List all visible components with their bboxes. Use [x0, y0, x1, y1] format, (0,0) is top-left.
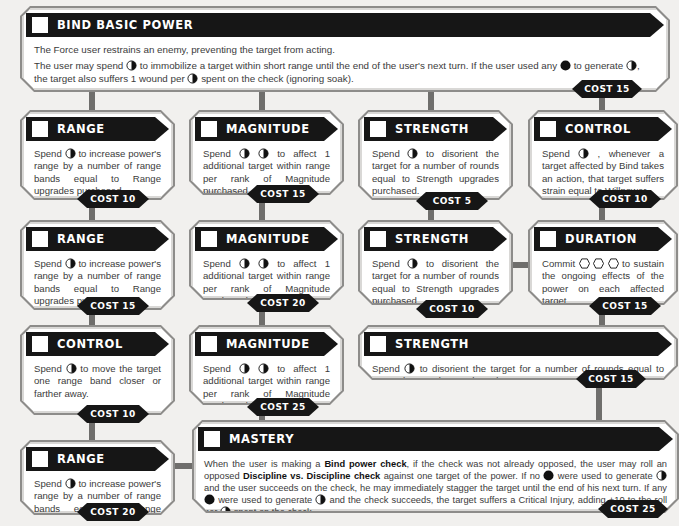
checkbox-icon[interactable] [32, 231, 48, 247]
checkbox-icon[interactable] [201, 121, 217, 137]
force-die-icon [593, 258, 604, 269]
card-title: RANGE [57, 122, 105, 136]
cost-badge: COST 10 [77, 190, 149, 208]
checkbox-icon[interactable] [540, 231, 556, 247]
basic-power-card: BIND BASIC POWER The Force user restrain… [20, 6, 670, 92]
mastery-card: MASTERY When the user is making a Bind p… [192, 420, 679, 513]
basic-rule: The user may spend to immobilize a targe… [34, 60, 656, 85]
light-dark-pip-icon [258, 258, 269, 269]
cost-badge: COST 15 [589, 297, 661, 315]
cost-badge: COST 15 [77, 297, 149, 315]
cost-badge: COST 15 [576, 370, 646, 388]
light-dark-pip-icon [187, 73, 198, 84]
cost-badge: COST 15 [247, 185, 319, 203]
upgrade-card-duration[interactable]: DURATION Commit to sustain the ongoing e… [528, 220, 678, 305]
card-title: MASTERY [229, 432, 294, 446]
light-dark-pip-icon [65, 148, 76, 159]
card-description: Spend to move the target one range band … [34, 363, 161, 400]
upgrade-card-strength-1[interactable]: STRENGTH Spend to disorient the target f… [358, 110, 513, 200]
light-dark-pip-icon [258, 148, 269, 159]
upgrade-card-range-2[interactable]: RANGE Spend to increase power's range by… [20, 220, 175, 310]
force-die-icon [608, 258, 619, 269]
light-dark-pip-icon [126, 60, 137, 71]
upgrade-card-magnitude-2[interactable]: MAGNITUDE Spend to affect 1 additional t… [189, 220, 344, 300]
force-die-icon [579, 258, 590, 269]
cost-badge: COST 15 [572, 80, 642, 98]
upgrade-card-range-1[interactable]: RANGE Spend to increase power's range by… [20, 110, 175, 200]
card-title: CONTROL [57, 337, 123, 351]
light-dark-pip-icon [66, 363, 77, 374]
checkbox-icon[interactable] [370, 231, 386, 247]
card-title: RANGE [57, 452, 105, 466]
checkbox-icon [204, 431, 220, 447]
cost-badge: COST 20 [77, 503, 149, 521]
light-dark-pip-icon [404, 363, 415, 374]
card-title: MAGNITUDE [226, 122, 310, 136]
card-title: BIND BASIC POWER [57, 18, 193, 32]
card-title: RANGE [57, 232, 105, 246]
light-dark-pip-icon [258, 363, 269, 374]
dark-pip-icon [204, 494, 215, 505]
light-dark-pip-icon [220, 506, 231, 517]
light-dark-pip-icon [578, 148, 589, 159]
checkbox-icon[interactable] [32, 451, 48, 467]
basic-description: The Force user restrains an enemy, preve… [34, 44, 656, 56]
card-title: STRENGTH [395, 122, 469, 136]
connector [259, 90, 265, 110]
cost-badge: COST 10 [77, 405, 149, 423]
cost-badge: COST 10 [416, 300, 488, 318]
light-dark-pip-icon [239, 148, 250, 159]
cost-badge: COST 25 [598, 500, 668, 518]
upgrade-card-magnitude-1[interactable]: MAGNITUDE Spend to affect 1 additional t… [189, 110, 344, 195]
light-dark-pip-icon [239, 363, 250, 374]
upgrade-card-magnitude-3[interactable]: MAGNITUDE Spend to affect 1 additional t… [189, 325, 344, 405]
upgrade-card-control-1[interactable]: CONTROL Spend , whenever a target affect… [528, 110, 678, 200]
light-dark-pip-icon [65, 478, 76, 489]
upgrade-card-strength-2[interactable]: STRENGTH Spend to disorient the target f… [358, 220, 513, 305]
checkbox-icon[interactable] [32, 336, 48, 352]
light-dark-pip-icon [407, 148, 418, 159]
cost-badge: COST 25 [247, 398, 319, 416]
card-title: MAGNITUDE [226, 337, 310, 351]
cost-badge: COST 20 [247, 294, 319, 312]
checkbox-icon [32, 17, 48, 33]
checkbox-icon[interactable] [201, 231, 217, 247]
light-dark-pip-icon [239, 258, 250, 269]
connector [89, 90, 95, 110]
light-dark-pip-icon [407, 258, 418, 269]
card-title: STRENGTH [395, 232, 469, 246]
card-title: STRENGTH [395, 337, 469, 351]
dark-pip-icon [560, 60, 571, 71]
checkbox-icon[interactable] [201, 336, 217, 352]
checkbox-icon[interactable] [370, 336, 386, 352]
light-dark-pip-icon [656, 470, 667, 481]
card-title: CONTROL [565, 122, 631, 136]
checkbox-icon[interactable] [32, 121, 48, 137]
card-title: DURATION [565, 232, 637, 246]
checkbox-icon[interactable] [540, 121, 556, 137]
light-dark-pip-icon [65, 258, 76, 269]
card-description: Spend to disorient the target for a numb… [372, 148, 499, 198]
cost-badge: COST 5 [416, 192, 488, 210]
connector [428, 90, 434, 110]
cost-badge: COST 10 [589, 190, 661, 208]
card-title: MAGNITUDE [226, 232, 310, 246]
light-dark-pip-icon [626, 60, 637, 71]
dark-pip-icon [543, 470, 554, 481]
checkbox-icon[interactable] [370, 121, 386, 137]
upgrade-card-control-2[interactable]: CONTROL Spend to move the target one ran… [20, 325, 175, 415]
light-dark-pip-icon [315, 494, 326, 505]
